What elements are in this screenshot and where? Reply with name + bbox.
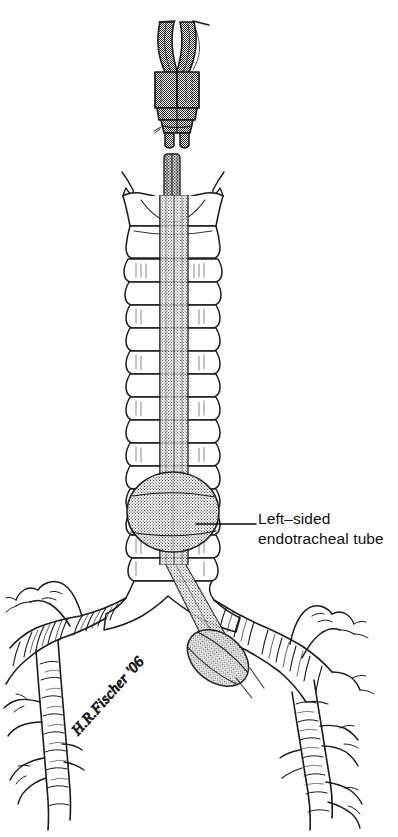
tracheal-cuff — [127, 472, 219, 552]
callout-label-line-1: Left–sided — [258, 509, 384, 529]
artist-signature: H.R.Fischer '06 — [68, 653, 147, 739]
bronchial-tree — [4, 581, 374, 830]
illustration-figure: H.R.Fischer '06 Left–sided endotracheal … — [0, 0, 398, 837]
double-lumen-connector — [154, 21, 209, 148]
airway-anatomy-illustration: H.R.Fischer '06 — [0, 0, 398, 837]
callout-label-line-2: endotracheal tube — [258, 529, 384, 549]
endotracheal-tube-upper — [164, 154, 180, 200]
callout-label: Left–sided endotracheal tube — [258, 509, 384, 549]
